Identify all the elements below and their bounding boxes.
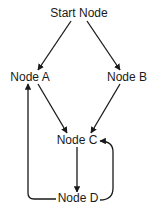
flow-diagram: Start Node Node A Node B Node C Node D: [0, 0, 152, 206]
edge-d-to-a: [28, 84, 56, 199]
edge-start-to-a: [38, 21, 71, 70]
node-a: Node A: [9, 71, 50, 83]
edge-b-to-c: [91, 84, 120, 133]
node-d: Node D: [57, 192, 100, 204]
edge-d-to-c: [100, 141, 113, 200]
node-start: Start Node: [49, 7, 108, 19]
edge-a-to-c: [38, 84, 67, 133]
edge-start-to-b: [87, 21, 120, 70]
node-c: Node C: [56, 134, 99, 146]
edges-layer: [0, 0, 152, 206]
node-b: Node B: [106, 71, 148, 83]
